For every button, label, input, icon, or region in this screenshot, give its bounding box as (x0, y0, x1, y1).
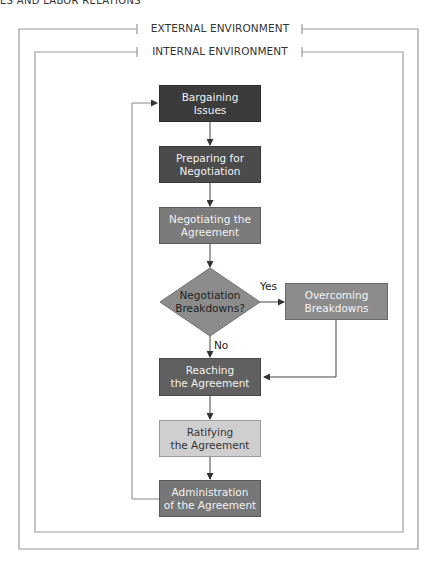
administration-agreement-box: Administration of the Agreement (159, 480, 261, 517)
preparing-for-negotiation-box: Preparing for Negotiation (159, 146, 261, 183)
reaching-agreement-box: Reaching the Agreement (159, 358, 261, 396)
overcoming-breakdowns-box: Overcoming Breakdowns (285, 283, 388, 320)
bargaining-issues-box: Bargaining Issues (159, 85, 261, 122)
external-environment-title: EXTERNAL ENVIRONMENT (140, 22, 300, 34)
yes-label: Yes (260, 280, 277, 292)
internal-environment-title: INTERNAL ENVIRONMENT (140, 45, 300, 57)
ratifying-agreement-box: Ratifying the Agreement (159, 420, 261, 457)
no-label: No (214, 339, 228, 351)
negotiating-agreement-box: Negotiating the Agreement (159, 207, 261, 244)
negotiation-breakdowns-decision: Negotiation Breakdowns? (160, 285, 260, 319)
